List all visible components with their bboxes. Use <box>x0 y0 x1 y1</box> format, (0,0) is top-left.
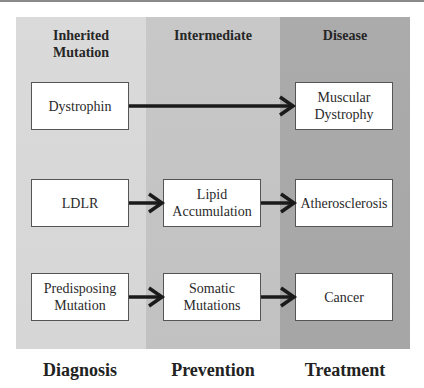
top-rule <box>0 0 424 2</box>
footer-label-treatment: Treatment <box>280 360 410 381</box>
arrow-right-icon <box>16 17 410 349</box>
footer-label-prevention: Prevention <box>148 360 278 381</box>
footer-label-diagnosis: Diagnosis <box>15 360 145 381</box>
diagram-panel: Inherited Mutation Intermediate Disease … <box>16 17 410 349</box>
